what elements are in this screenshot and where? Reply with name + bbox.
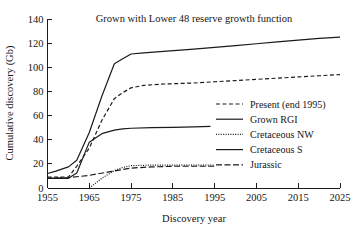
- x-tick-label: 2025: [330, 192, 351, 203]
- x-axis-title: Discovery year: [162, 213, 226, 224]
- data-series: [48, 37, 341, 188]
- legend-label-grown-rgi: Grown RGI: [250, 114, 298, 125]
- y-tick-label: 120: [28, 38, 44, 49]
- y-tick-label: 100: [28, 62, 44, 73]
- y-tick-label: 80: [33, 86, 44, 97]
- legend-label-cretaceous-nw: Cretaceous NW: [250, 129, 314, 140]
- x-tick-label: 1965: [79, 192, 100, 203]
- chart-figure: 0204060801001201401955196519751985199520…: [0, 0, 356, 229]
- y-axis-title: Cumulative discovery (Gb): [4, 45, 16, 160]
- x-tick-label: 1995: [204, 192, 225, 203]
- legend-label-jurassic: Jurassic: [250, 159, 282, 170]
- y-tick-label: 140: [28, 14, 44, 25]
- legend: Present (end 1995)Grown RGICretaceous NW…: [216, 99, 326, 171]
- y-tick-label: 20: [33, 158, 44, 169]
- x-tick-label: 2015: [288, 192, 309, 203]
- legend-label-present-end-1995: Present (end 1995): [250, 99, 326, 111]
- x-tick-label: 1955: [37, 192, 58, 203]
- x-tick-label: 2005: [246, 192, 267, 203]
- series-line-cretaceous-nw: [89, 165, 214, 188]
- chart-title: Grown with Lower 48 reserve growth funct…: [96, 13, 293, 24]
- y-tick-label: 40: [33, 134, 44, 145]
- y-tick-label: 60: [33, 110, 44, 121]
- x-tick-label: 1985: [162, 192, 183, 203]
- series-line-cretaceous-s: [48, 126, 211, 178]
- legend-label-cretaceous-s: Cretaceous S: [250, 144, 303, 155]
- cumulative-discovery-line-chart: 0204060801001201401955196519751985199520…: [0, 0, 356, 229]
- x-tick-label: 1975: [121, 192, 142, 203]
